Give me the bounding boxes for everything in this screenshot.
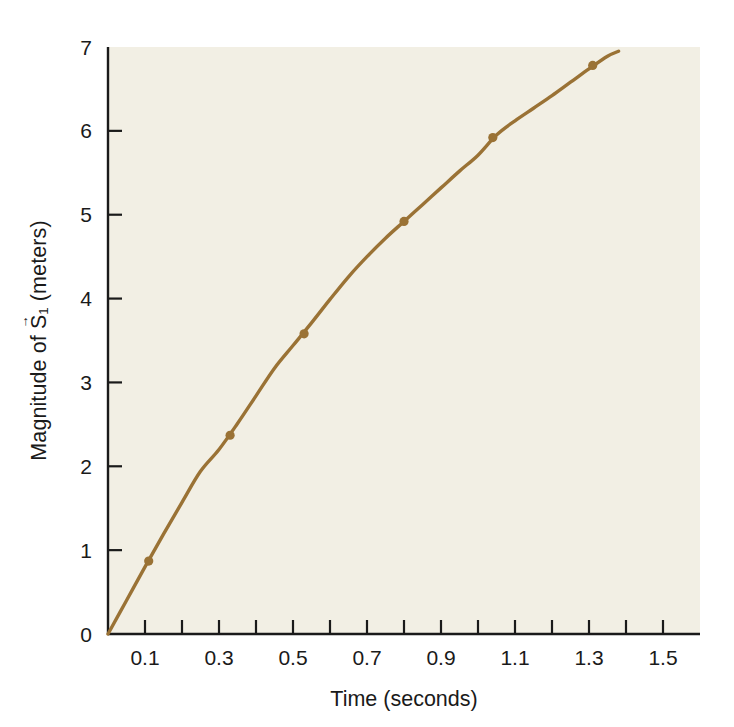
data-point-marker (226, 431, 235, 440)
data-point-marker (588, 61, 597, 70)
y-tick-label: 7 (80, 36, 92, 59)
y-tick-label: 5 (80, 203, 92, 226)
chart-plot: 0.10.30.50.70.91.11.31.5 01234567 (0, 0, 734, 727)
x-axis-tick-labels: 0.10.30.50.70.91.11.31.5 (130, 646, 677, 669)
x-tick-label: 0.7 (352, 646, 381, 669)
plot-area-background (108, 47, 700, 634)
y-axis-tick-labels: 01234567 (80, 36, 92, 646)
y-tick-label: 4 (80, 287, 92, 310)
y-tick-label: 1 (80, 539, 92, 562)
x-tick-label: 0.3 (204, 646, 233, 669)
x-tick-label: 0.9 (426, 646, 455, 669)
y-tick-label: 0 (80, 623, 92, 646)
plot-background-group (108, 47, 700, 634)
figure-container: Magnitude of →S1 (meters) Time (seconds)… (0, 0, 734, 727)
data-point-marker (488, 133, 497, 142)
y-tick-label: 6 (80, 119, 92, 142)
data-point-marker (399, 217, 408, 226)
x-tick-label: 1.1 (500, 646, 529, 669)
data-point-marker (300, 329, 309, 338)
y-tick-label: 3 (80, 371, 92, 394)
x-tick-label: 0.1 (130, 646, 159, 669)
y-tick-label: 2 (80, 455, 92, 478)
x-tick-label: 0.5 (278, 646, 307, 669)
x-tick-label: 1.5 (648, 646, 677, 669)
x-tick-label: 1.3 (574, 646, 603, 669)
data-point-marker (144, 556, 153, 565)
